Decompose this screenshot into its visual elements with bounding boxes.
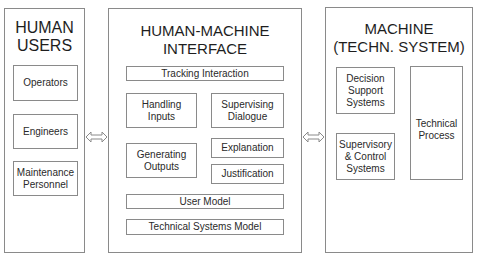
bidirectional-arrow-icon xyxy=(302,130,325,144)
user-model-box: User Model xyxy=(126,194,284,209)
supervising-dialogue-label: Supervising Dialogue xyxy=(221,99,273,123)
human-users-title: HUMAN USERS xyxy=(5,19,84,55)
tracking-interaction-label: Tracking Interaction xyxy=(161,68,248,80)
tracking-interaction-box: Tracking Interaction xyxy=(126,66,284,81)
engineers-label: Engineers xyxy=(23,126,68,138)
justification-box: Justification xyxy=(211,164,284,184)
technical-systems-model-box: Technical Systems Model xyxy=(126,219,284,235)
decision-support-systems-label: Decision Support Systems xyxy=(346,73,384,109)
handling-inputs-label: Handling Inputs xyxy=(142,99,181,123)
hmi-title: HUMAN-MACHINE INTERFACE xyxy=(109,22,301,58)
hmi-panel: HUMAN-MACHINE INTERFACE Tracking Interac… xyxy=(108,8,302,253)
technical-systems-model-label: Technical Systems Model xyxy=(149,221,262,233)
generating-outputs-label: Generating Outputs xyxy=(137,149,186,173)
maintenance-personnel-label: Maintenance Personnel xyxy=(17,167,74,191)
user-model-label: User Model xyxy=(179,196,230,208)
generating-outputs-box: Generating Outputs xyxy=(126,143,197,178)
operators-label: Operators xyxy=(23,77,67,89)
bidirectional-arrow-icon xyxy=(85,130,108,144)
handling-inputs-box: Handling Inputs xyxy=(126,93,197,128)
maintenance-personnel-box: Maintenance Personnel xyxy=(13,161,78,196)
engineers-box: Engineers xyxy=(13,114,78,149)
decision-support-systems-box: Decision Support Systems xyxy=(336,67,395,114)
technical-process-box: Technical Process xyxy=(410,66,463,180)
justification-label: Justification xyxy=(221,168,273,180)
supervising-dialogue-box: Supervising Dialogue xyxy=(211,93,284,128)
operators-box: Operators xyxy=(13,65,78,101)
supervisory-control-systems-box: Supervisory & Control Systems xyxy=(336,133,395,180)
explanation-box: Explanation xyxy=(211,138,284,158)
machine-title: MACHINE (TECHN. SYSTEM) xyxy=(326,20,472,56)
supervisory-control-systems-label: Supervisory & Control Systems xyxy=(339,139,392,175)
explanation-label: Explanation xyxy=(221,142,273,154)
technical-process-label: Technical Process xyxy=(416,118,458,142)
machine-panel: MACHINE (TECHN. SYSTEM) Decision Support… xyxy=(325,7,473,253)
human-users-panel: HUMAN USERS Operators Engineers Maintena… xyxy=(4,8,85,253)
